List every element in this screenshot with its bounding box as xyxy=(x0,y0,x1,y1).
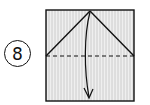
fold-diagram xyxy=(0,0,150,105)
